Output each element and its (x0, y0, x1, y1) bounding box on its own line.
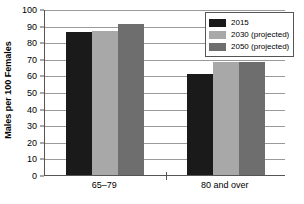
legend-swatch (209, 43, 226, 51)
bar (187, 74, 213, 175)
bar (92, 31, 118, 175)
legend: 20152030 (projected)2050 (projected) (205, 12, 294, 57)
bar-chart: Males per 100 Females 010203040506070809… (0, 0, 304, 204)
bar (213, 62, 239, 175)
y-axis-tick-label: 10 (27, 154, 37, 164)
legend-item: 2015 (209, 17, 289, 28)
y-axis-tick-label: 40 (27, 105, 37, 115)
y-axis-tick-label: 80 (27, 38, 37, 48)
y-axis-title-text: Males per 100 Females (3, 41, 13, 139)
y-axis-tick-label: 0 (32, 171, 37, 181)
y-axis-tick-label: 100 (22, 5, 37, 15)
bar (239, 62, 265, 175)
y-axis-title: Males per 100 Females (0, 0, 16, 180)
legend-item: 2030 (projected) (209, 29, 289, 40)
y-axis-tick-label: 70 (27, 55, 37, 65)
legend-label: 2050 (projected) (231, 42, 289, 51)
y-axis-tick-label: 50 (27, 88, 37, 98)
y-axis-tick-label: 30 (27, 121, 37, 131)
y-axis-tick-label: 60 (27, 71, 37, 81)
legend-swatch (209, 19, 226, 27)
x-axis-tick-labels: 65–7980 and over (44, 180, 285, 200)
x-axis-tick-label: 65–79 (92, 180, 117, 190)
bar (66, 32, 92, 175)
x-axis-separator (166, 172, 167, 180)
legend-label: 2030 (projected) (231, 30, 289, 39)
y-axis-tick-label: 90 (27, 22, 37, 32)
bar (118, 24, 144, 175)
legend-label: 2015 (231, 18, 249, 27)
y-axis-tick-label: 20 (27, 138, 37, 148)
legend-item: 2050 (projected) (209, 41, 289, 52)
y-axis-tick-labels: 0102030405060708090100 (16, 10, 40, 176)
legend-swatch (209, 31, 226, 39)
x-axis-tick-label: 80 and over (201, 180, 249, 190)
